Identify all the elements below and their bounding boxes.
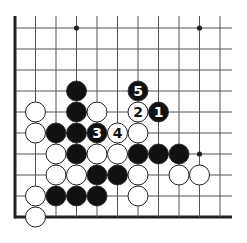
white-stone-icon (128, 186, 148, 206)
black-stone (67, 186, 87, 206)
white-stone (26, 123, 46, 143)
black-stone-icon (149, 144, 169, 164)
black-stone-icon (67, 81, 87, 101)
white-stone (46, 165, 66, 185)
black-stone (128, 144, 148, 164)
black-stone-icon (169, 144, 189, 164)
black-stone-move-1: 1 (149, 102, 169, 122)
white-stone-icon (46, 165, 66, 185)
black-stone (67, 123, 87, 143)
white-stone-icon (87, 144, 107, 164)
move-number: 5 (133, 83, 143, 99)
white-stone-icon (128, 165, 148, 185)
black-stone-icon (67, 186, 87, 206)
star-point-icon (197, 151, 202, 156)
white-stone (108, 144, 128, 164)
black-stone (67, 144, 87, 164)
white-stone (128, 123, 148, 143)
move-number: 1 (154, 104, 164, 120)
white-stone (26, 186, 46, 206)
move-number: 4 (113, 125, 123, 141)
white-stone-icon (87, 102, 107, 122)
white-stone (26, 207, 46, 227)
board-grid (15, 16, 232, 219)
white-stone-icon (190, 165, 210, 185)
black-stone (67, 102, 87, 122)
white-stone (87, 102, 107, 122)
black-stone (67, 81, 87, 101)
black-stone (46, 186, 66, 206)
black-stone-move-3: 3 (87, 123, 107, 143)
black-stone (149, 144, 169, 164)
black-stone-move-5: 5 (128, 81, 148, 101)
go-board: 52134 (0, 0, 247, 243)
white-stone (46, 144, 66, 164)
black-stone-icon (67, 123, 87, 143)
black-stone-icon (128, 144, 148, 164)
black-stone (169, 144, 189, 164)
white-stone-icon (26, 207, 46, 227)
white-stone-icon (26, 102, 46, 122)
star-point-icon (74, 25, 79, 30)
white-stone-icon (169, 165, 189, 185)
black-stone-icon (46, 186, 66, 206)
white-stone (87, 144, 107, 164)
black-stone-icon (46, 123, 66, 143)
white-stone (128, 186, 148, 206)
black-stone (46, 123, 66, 143)
white-stone (26, 102, 46, 122)
white-stone-move-2: 2 (128, 102, 148, 122)
black-stone-icon (87, 186, 107, 206)
black-stone-icon (67, 102, 87, 122)
white-stone (169, 165, 189, 185)
white-stone-icon (108, 144, 128, 164)
white-stone-icon (26, 123, 46, 143)
white-stone (67, 165, 87, 185)
white-stone (190, 165, 210, 185)
white-stone-move-4: 4 (108, 123, 128, 143)
black-stone (108, 165, 128, 185)
black-stone-icon (108, 165, 128, 185)
white-stone-icon (46, 144, 66, 164)
star-point-icon (197, 25, 202, 30)
move-number: 3 (92, 125, 102, 141)
white-stone-icon (26, 186, 46, 206)
white-stone-icon (67, 165, 87, 185)
black-stone-icon (67, 144, 87, 164)
black-stone (87, 165, 107, 185)
white-stone (128, 165, 148, 185)
black-stone (87, 186, 107, 206)
black-stone-icon (87, 165, 107, 185)
move-number: 2 (133, 104, 143, 120)
white-stone-icon (128, 123, 148, 143)
